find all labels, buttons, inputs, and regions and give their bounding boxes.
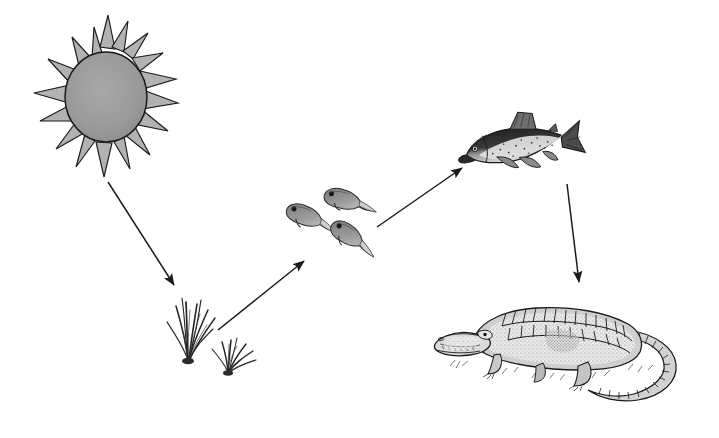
arrow-tadpoles-to-fish: [377, 168, 462, 227]
node-sun: Sun: [34, 17, 179, 177]
node-grass: Grass: [158, 296, 268, 378]
arrow-fish-to-alligator: [567, 184, 579, 282]
food-chain-diagram: Food chain: [0, 0, 719, 438]
arrow-sun-to-grass: [108, 182, 174, 285]
node-alligator: Alligator: [432, 300, 687, 410]
node-fish: Fish: [466, 110, 584, 182]
node-tadpoles: Tadpoles: [282, 182, 387, 262]
